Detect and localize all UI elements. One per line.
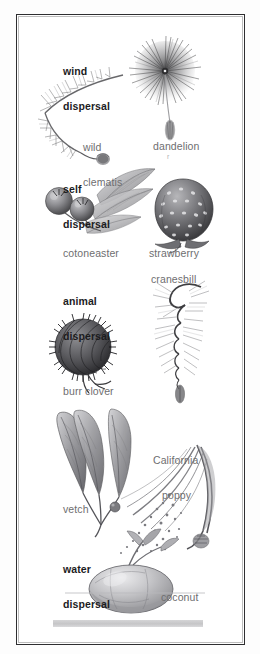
page-frame: wind dispersal wild clematis dandelion r… (16, 14, 245, 645)
label-california-poppy: California poppy (153, 432, 198, 524)
label-wild-clematis-line1: wild (83, 142, 122, 154)
label-cranesbill: cranesbill (151, 274, 196, 286)
label-dandelion: dandelion (153, 141, 199, 153)
illustration-plate: wind dispersal wild clematis dandelion r… (17, 15, 246, 646)
heading-animal-dispersal: animal dispersal (63, 273, 110, 365)
label-strawberry: strawberry (149, 248, 199, 260)
heading-water-line2: dispersal (63, 599, 110, 611)
heading-self-line2: dispersal (63, 219, 110, 231)
label-cotoneaster: cotoneaster (63, 248, 119, 260)
label-vetch: vetch (63, 504, 89, 516)
strawberry-drawing (145, 173, 225, 255)
heading-water-line1: water (63, 564, 110, 576)
bottom-gray-bar (53, 620, 203, 627)
heading-animal-line2: dispersal (63, 331, 110, 343)
heading-animal-line1: animal (63, 296, 110, 308)
heading-self-line1: self (63, 184, 110, 196)
cranesbill-drawing (143, 277, 221, 407)
label-california-poppy-line1: California (153, 455, 198, 467)
label-coconut: coconut (161, 592, 198, 604)
illustration-page: wind dispersal wild clematis dandelion r… (0, 0, 260, 654)
heading-wind-line2: dispersal (63, 101, 110, 113)
heading-wind-line1: wind (63, 66, 110, 78)
label-california-poppy-line2: poppy (162, 490, 198, 502)
label-burr-clover: burr clover (63, 386, 114, 398)
heading-self-dispersal: self dispersal (63, 161, 110, 253)
scan-artifact-mark: r (167, 153, 169, 160)
